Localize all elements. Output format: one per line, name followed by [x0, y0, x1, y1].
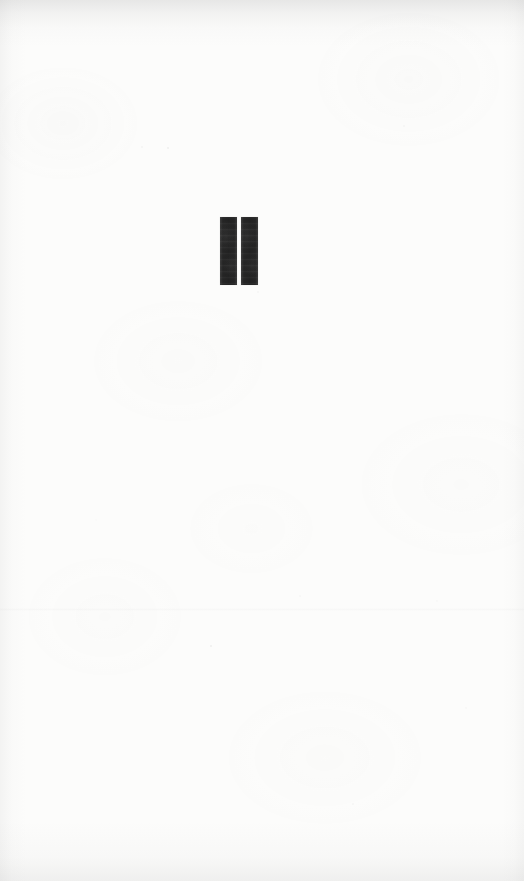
numeral-stroke-right — [241, 217, 258, 285]
bottom-edge-shadow — [0, 821, 524, 881]
scan-banding-artifact — [0, 608, 524, 611]
paper-speckles — [0, 0, 524, 881]
top-edge-shadow — [0, 0, 524, 46]
numeral-stroke-left — [220, 217, 237, 285]
left-edge-shadow — [0, 0, 26, 881]
right-edge-shadow — [502, 0, 524, 881]
scanned-page — [0, 0, 524, 881]
part-numeral — [220, 217, 258, 285]
